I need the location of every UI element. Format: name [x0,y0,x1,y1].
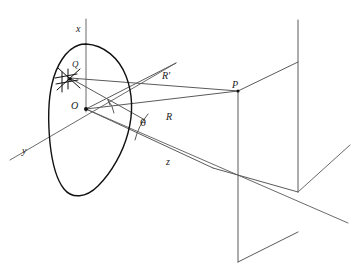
z-axis-label: z [166,157,170,167]
diffraction-geometry-figure: x y z Q O P R′ R θ [0,0,362,276]
hatch-cross-marker [55,68,80,92]
point-q-label: Q [72,60,79,69]
y-axis-label: y [22,146,26,156]
ray-O-to-plane-lower [86,109,213,168]
far-axis-line [298,145,350,192]
z-axis-line [86,109,348,223]
irregular-aperture-outline [49,44,132,196]
plane-edge-top [238,62,298,91]
plane-diagonal-lower [213,168,298,192]
theta-angle-label: θ [140,118,146,128]
y-axis-line [10,63,176,160]
origin-dot [84,107,88,111]
q-point-dot [68,77,72,81]
point-p-label: P [232,80,238,90]
x-axis-label: x [76,24,80,34]
ray-Q-to-P [70,78,238,91]
vector-r-label: R [166,112,172,122]
figure-canvas [0,0,362,276]
vector-r-prime-label: R′ [162,71,170,81]
point-o-label: O [71,101,78,111]
plane-edge-bottom [238,232,298,262]
